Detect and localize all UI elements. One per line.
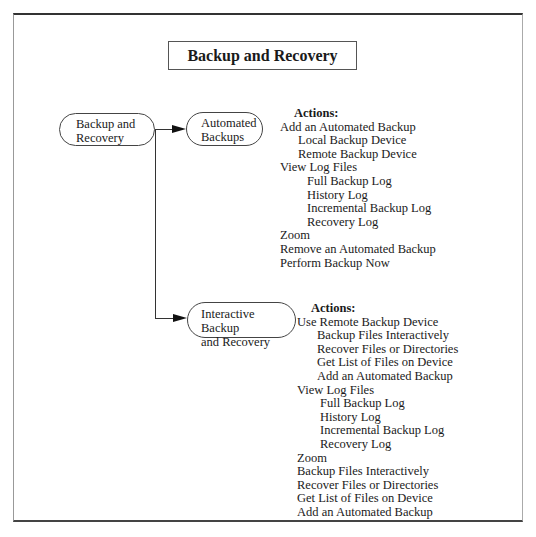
arrowhead-automated bbox=[172, 125, 186, 133]
action-item: Perform Backup Now bbox=[280, 257, 436, 271]
action-item: Backup Files Interactively bbox=[297, 329, 458, 343]
node-label-line1: Automated bbox=[201, 116, 262, 130]
action-item: Add an Automated Backup bbox=[280, 121, 436, 135]
node-label-line1: Interactive Backup bbox=[201, 307, 295, 335]
interactive-actions-list: Actions: Use Remote Backup Device Backup… bbox=[297, 302, 458, 520]
diagram-title: Backup and Recovery bbox=[168, 41, 357, 70]
actions-header: Actions: bbox=[280, 107, 436, 121]
action-item: Recover Files or Directories bbox=[297, 343, 458, 357]
actions-header: Actions: bbox=[297, 302, 458, 316]
action-item: History Log bbox=[297, 411, 458, 425]
action-item: View Log Files bbox=[280, 161, 436, 175]
action-item: Backup Files Interactively bbox=[297, 465, 458, 479]
action-item: Recover Files or Directories bbox=[297, 479, 458, 493]
action-item: Get List of Files on Device bbox=[297, 356, 458, 370]
action-item: Local Backup Device bbox=[280, 134, 436, 148]
action-item: Full Backup Log bbox=[297, 397, 458, 411]
node-label-line2: and Recovery bbox=[201, 335, 295, 349]
node-label-line2: Recovery bbox=[76, 131, 154, 145]
node-label-line1: Backup and bbox=[76, 117, 154, 131]
action-item: Recovery Log bbox=[297, 438, 458, 452]
connector-vertical bbox=[155, 129, 156, 319]
node-backup-and-recovery[interactable]: Backup and Recovery bbox=[59, 113, 155, 146]
arrowhead-interactive bbox=[173, 314, 187, 322]
action-item: Add an Automated Backup bbox=[297, 370, 458, 384]
action-item: Recovery Log bbox=[280, 216, 436, 230]
action-item: Incremental Backup Log bbox=[297, 424, 458, 438]
action-item: Full Backup Log bbox=[280, 175, 436, 189]
action-item: History Log bbox=[280, 189, 436, 203]
connector-root-to-automated bbox=[155, 129, 173, 130]
action-item: Use Remote Backup Device bbox=[297, 316, 458, 330]
node-label-line2: Backups bbox=[201, 130, 262, 144]
action-item: Add an Automated Backup bbox=[297, 506, 458, 520]
action-item: Remote Backup Device bbox=[280, 148, 436, 162]
connector-root-to-interactive bbox=[155, 318, 174, 319]
node-interactive-backup-and-recovery[interactable]: Interactive Backup and Recovery bbox=[187, 302, 296, 338]
action-item: Zoom bbox=[297, 452, 458, 466]
action-item: Zoom bbox=[280, 229, 436, 243]
automated-actions-list: Actions: Add an Automated Backup Local B… bbox=[280, 107, 436, 270]
action-item: Remove an Automated Backup bbox=[280, 243, 436, 257]
action-item: Incremental Backup Log bbox=[280, 202, 436, 216]
action-item: View Log Files bbox=[297, 384, 458, 398]
node-automated-backups[interactable]: Automated Backups bbox=[186, 112, 263, 146]
action-item: Get List of Files on Device bbox=[297, 492, 458, 506]
